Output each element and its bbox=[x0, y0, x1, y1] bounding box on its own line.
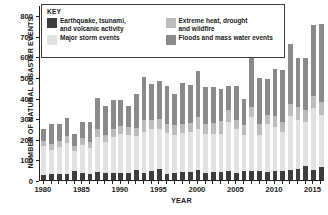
bar-segment bbox=[288, 116, 293, 170]
bar-segment bbox=[273, 171, 278, 180]
bar-segment bbox=[95, 98, 100, 128]
x-tick-label: 1990 bbox=[111, 185, 128, 194]
legend-column-left: Earthquake, tsunami, and volcanic activi… bbox=[47, 17, 162, 47]
bar-segment bbox=[103, 142, 108, 172]
bar-2007 bbox=[249, 54, 254, 180]
bar-1983 bbox=[65, 118, 70, 180]
bar-2000 bbox=[196, 71, 201, 180]
bar-segment bbox=[196, 129, 201, 170]
y-tick-label: 600 bbox=[11, 53, 33, 62]
bar-segment bbox=[203, 124, 208, 133]
bar-1988 bbox=[103, 106, 108, 180]
legend-title: KEY bbox=[47, 8, 280, 15]
bar-2005 bbox=[234, 86, 239, 181]
legend-item: Floods and mass water events bbox=[166, 34, 281, 45]
bar-segment bbox=[118, 134, 123, 173]
bar-segment bbox=[265, 172, 270, 180]
legend-item-label: Earthquake, tsunami, and volcanic activi… bbox=[60, 17, 126, 32]
x-tick-mark bbox=[251, 181, 252, 184]
bar-segment bbox=[134, 128, 139, 136]
bar-segment bbox=[242, 125, 247, 135]
x-tick-mark bbox=[74, 181, 75, 184]
bar-segment bbox=[242, 135, 247, 171]
y-tick-label: 700 bbox=[11, 32, 33, 41]
bar-segment bbox=[157, 119, 162, 128]
bar-segment bbox=[280, 171, 285, 180]
bar-segment bbox=[142, 132, 147, 173]
legend-item: Extreme heat, drought and wildfire bbox=[166, 17, 281, 32]
bar-1989 bbox=[111, 100, 116, 180]
bar-segment bbox=[211, 123, 216, 133]
bar-1995 bbox=[157, 81, 162, 180]
bar-segment bbox=[257, 171, 262, 180]
bar-segment bbox=[103, 135, 108, 143]
bar-segment bbox=[273, 69, 278, 116]
bar-segment bbox=[303, 58, 308, 110]
bar-segment bbox=[95, 137, 100, 172]
bar-segment bbox=[219, 89, 224, 121]
bar-1980 bbox=[41, 129, 46, 180]
legend-item-label: Major storm events bbox=[60, 34, 120, 42]
bar-segment bbox=[165, 174, 170, 180]
bar-segment bbox=[319, 167, 324, 180]
bar-segment bbox=[265, 124, 270, 171]
bar-segment bbox=[57, 124, 62, 141]
bar-segment bbox=[288, 170, 293, 180]
bar-segment bbox=[80, 145, 85, 174]
bar-segment bbox=[49, 124, 54, 144]
bar-segment bbox=[80, 173, 85, 180]
bar-segment bbox=[49, 150, 54, 175]
bar-segment bbox=[296, 169, 301, 180]
x-tick-mark bbox=[228, 181, 229, 184]
bar-segment bbox=[88, 148, 93, 174]
x-tick-mark bbox=[143, 181, 144, 184]
x-tick-mark bbox=[266, 181, 267, 184]
bar-segment bbox=[49, 174, 54, 180]
bar-segment bbox=[111, 129, 116, 138]
bar-2001 bbox=[203, 87, 208, 180]
x-tick-label: 2000 bbox=[188, 185, 205, 194]
bar-segment bbox=[226, 171, 231, 180]
bar-segment bbox=[118, 173, 123, 180]
bar-segment bbox=[249, 117, 254, 171]
x-tick-mark bbox=[305, 181, 306, 184]
bar-1998 bbox=[180, 83, 185, 180]
bar-segment bbox=[126, 135, 131, 173]
bar-segment bbox=[118, 126, 123, 133]
bar-segment bbox=[303, 122, 308, 165]
bar-segment bbox=[188, 85, 193, 123]
bar-segment bbox=[196, 117, 201, 129]
bar-1994 bbox=[149, 83, 154, 180]
x-tick-mark bbox=[58, 181, 59, 184]
bar-segment bbox=[188, 132, 193, 172]
x-tick-mark bbox=[197, 181, 198, 184]
bar-segment bbox=[303, 110, 308, 122]
bar-1987 bbox=[95, 98, 100, 180]
bar-segment bbox=[157, 169, 162, 180]
bar-segment bbox=[273, 116, 278, 126]
x-tick-mark bbox=[212, 181, 213, 184]
natural-disaster-events-chart: NUMBER OF NATURAL DISASTER EVENTS 010020… bbox=[0, 0, 328, 215]
y-axis-tick-labels: 0100200300400500600700800 bbox=[11, 0, 33, 215]
y-tick-label: 0 bbox=[11, 177, 33, 186]
bar-segment bbox=[319, 24, 324, 102]
y-tick-label: 500 bbox=[11, 74, 33, 83]
bar-segment bbox=[95, 172, 100, 180]
bar-segment bbox=[80, 122, 85, 138]
legend-item: Earthquake, tsunami, and volcanic activi… bbox=[47, 17, 162, 32]
bar-segment bbox=[149, 171, 154, 180]
x-tick-mark bbox=[43, 181, 44, 184]
x-tick-mark bbox=[51, 181, 52, 184]
bar-segment bbox=[72, 171, 77, 180]
bar-segment bbox=[273, 127, 278, 171]
bar-segment bbox=[103, 106, 108, 134]
legend-item-label: Floods and mass water events bbox=[179, 34, 273, 42]
legend: KEY Earthquake, tsunami, and volcanic ac… bbox=[41, 4, 285, 58]
x-tick-mark bbox=[220, 181, 221, 184]
x-tick-mark bbox=[189, 181, 190, 184]
bar-segment bbox=[211, 172, 216, 180]
x-tick-mark bbox=[297, 181, 298, 184]
x-tick-mark bbox=[112, 181, 113, 184]
bar-segment bbox=[172, 135, 177, 173]
bar-2004 bbox=[226, 86, 231, 180]
